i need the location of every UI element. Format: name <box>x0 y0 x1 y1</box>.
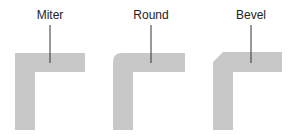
round-label: Round <box>133 8 168 22</box>
miter-label: Miter <box>37 8 64 22</box>
bevel-label: Bevel <box>236 8 266 22</box>
bevel-join-shape <box>213 52 282 130</box>
miter-join-shape <box>15 53 85 130</box>
round-join-shape <box>113 53 185 130</box>
